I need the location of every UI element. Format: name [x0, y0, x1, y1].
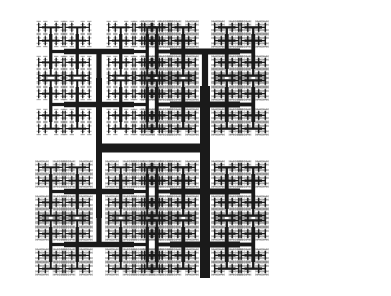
h-tree-svg	[0, 0, 391, 296]
fractal-canvas	[0, 0, 391, 296]
